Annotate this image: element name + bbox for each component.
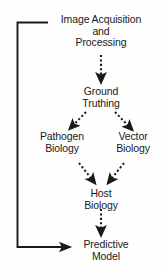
edge-vector-to-host [111, 163, 125, 180]
edge-ground-to-pathogen [73, 112, 87, 126]
node-image-acquisition: Image Acquisition and Processing [41, 14, 161, 49]
node-ground-truthing: Ground Truthing [56, 86, 146, 109]
edge-ground-to-vector [115, 112, 130, 127]
flowchart-diagram: Image Acquisition and Processing Ground … [0, 0, 162, 275]
node-pathogen-biology: Pathogen Biology [29, 131, 95, 154]
node-vector-biology: Vector Biology [104, 131, 162, 154]
node-host-biology: Host Biology [66, 188, 136, 211]
node-predictive-model: Predictive Model [66, 239, 146, 262]
edge-pathogen-to-host [79, 163, 93, 180]
